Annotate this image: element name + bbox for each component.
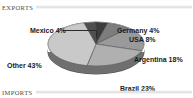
pie-label-mexico: Mexico 4% — [30, 27, 66, 35]
leader-line-mexico-vertical — [96, 30, 97, 38]
header-rule-imports — [36, 90, 192, 94]
section-header-imports: IMPORTS — [0, 86, 193, 98]
exports-pie-chart: Mexico 4% Germany 4% USA 8% Argentina 18… — [0, 12, 193, 86]
section-title-imports: IMPORTS — [0, 89, 33, 96]
exports-imports-panel: EXPORTS Mexico 4% Germany 4% USA 8% Arge… — [0, 0, 193, 98]
pie-label-argentina: Argentina 18% — [134, 56, 183, 64]
pie-label-germany: Germany 4% — [117, 27, 159, 35]
section-title-exports: EXPORTS — [0, 4, 33, 11]
header-rule-exports — [36, 5, 192, 9]
pie-label-other: Other 43% — [7, 62, 42, 70]
leader-line-mexico-horizontal — [63, 30, 97, 31]
pie-label-usa: USA 8% — [129, 36, 156, 44]
